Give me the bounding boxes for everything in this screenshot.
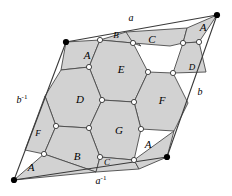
face-E-center: E: [117, 63, 125, 75]
figure-canvas: ABCADEDFGFBCAA aba-1b-1: [0, 0, 232, 196]
vertex-2: [130, 40, 135, 45]
edge-b: b: [198, 86, 203, 97]
vertex-6: [145, 69, 150, 74]
face-B-top: B: [113, 30, 119, 40]
vertex-14: [97, 154, 102, 159]
face-D-left: D: [75, 93, 84, 105]
edge-b-inverse: b-1: [17, 93, 28, 106]
face-F-left: F: [34, 128, 41, 138]
face-C-bottom: C: [104, 157, 111, 167]
hexagonal-tiling-figure: ABCADEDFGFBCAA aba-1b-1: [0, 0, 232, 196]
face-A-bottomleft: A: [27, 161, 35, 173]
face-C-top: C: [148, 33, 156, 45]
edge-a-inverse: a-1: [96, 174, 107, 187]
vertex-5: [86, 64, 91, 69]
vertex-3: [180, 40, 185, 45]
vertex-10: [53, 123, 58, 128]
edge-b-base: b: [198, 86, 203, 97]
vertex-1: [97, 37, 102, 42]
corner-dot-bottom-right: [164, 154, 170, 160]
edge-b-inverse-exponent: -1: [22, 93, 28, 101]
face-F-right: F: [158, 94, 166, 106]
face-A-bottomright: A: [144, 138, 152, 150]
corner-dot-top-right: [214, 12, 220, 18]
vertex-13: [41, 151, 46, 156]
face-G-center: G: [115, 124, 123, 136]
vertex-11: [86, 125, 91, 130]
edge-a-base: a: [129, 12, 134, 23]
edge-a-inverse-exponent: -1: [101, 174, 107, 182]
face-B-bottom: B: [74, 150, 81, 162]
vertex-8: [99, 97, 104, 102]
face-D-right: D: [188, 62, 196, 72]
vertex-7: [170, 70, 175, 75]
face-A-topright: A: [199, 21, 207, 33]
vertex-15: [131, 157, 136, 162]
vertex-4: [196, 39, 201, 44]
face-poly-A-bottomright: [134, 131, 174, 169]
face-A-topleft: A: [83, 49, 91, 61]
corner-dot-top-left: [63, 39, 69, 45]
corner-dot-bottom-left: [11, 177, 17, 183]
edge-a: a: [129, 12, 134, 23]
vertex-12: [138, 126, 143, 131]
vertex-9: [131, 99, 136, 104]
